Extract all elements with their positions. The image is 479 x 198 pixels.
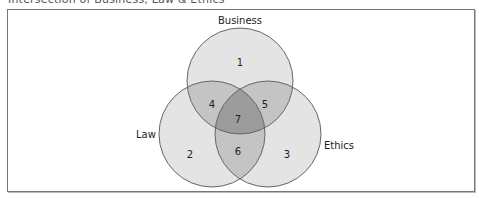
region-6: 6 [235,146,241,157]
label-ethics: Ethics [324,140,354,151]
region-1: 1 [237,57,243,68]
region-3: 3 [284,149,290,160]
label-law: Law [136,129,156,140]
region-2: 2 [187,149,193,160]
region-4: 4 [209,99,215,110]
label-business: Business [218,15,262,26]
region-5: 5 [262,99,268,110]
region-7: 7 [235,114,241,125]
venn-diagram: Business Law Ethics 1 2 3 4 5 6 7 [0,0,479,198]
